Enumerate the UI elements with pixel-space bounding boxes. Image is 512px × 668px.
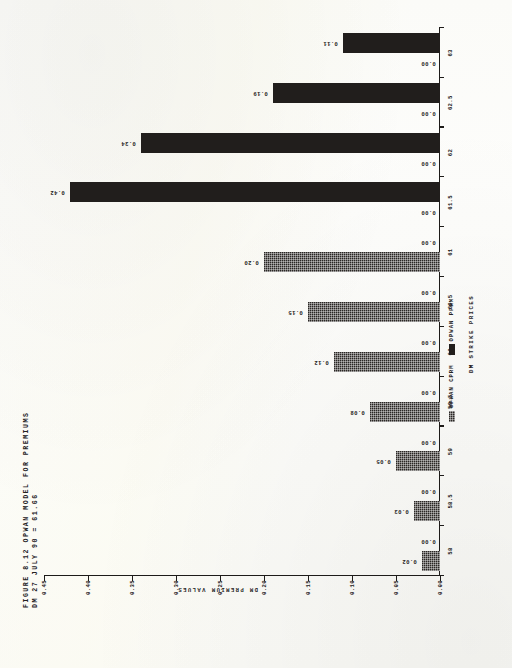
bar-cprm: 0.08 bbox=[370, 402, 440, 422]
x-tick bbox=[439, 475, 444, 476]
x-tick bbox=[439, 326, 444, 327]
bar-cprm: 0.02 bbox=[422, 551, 440, 571]
legend-item-cprm: OPWAN CPRM bbox=[448, 364, 455, 422]
x-tick-label: 63 bbox=[447, 49, 454, 56]
x-tick-label: 61 bbox=[447, 249, 454, 256]
bar-value-label: 0.20 bbox=[244, 259, 259, 266]
y-axis-line bbox=[44, 575, 440, 576]
bar-value-label: 0.05 bbox=[376, 458, 391, 465]
y-tick-label: 0.05 bbox=[393, 580, 400, 595]
bar-value-label: 0.00 bbox=[421, 388, 436, 395]
x-tick-label: 62 bbox=[447, 149, 454, 156]
y-tick-label: 0.45 bbox=[41, 580, 48, 595]
x-tick bbox=[439, 376, 444, 377]
bar-pfrm: 0.34 bbox=[141, 133, 440, 153]
bar-cprm: 0.03 bbox=[414, 501, 440, 521]
bar-value-label: 0.42 bbox=[51, 189, 66, 196]
bar-value-label: 0.11 bbox=[323, 39, 338, 46]
figure-title-line-1: FIGURE 8.12 OPWAN MODEL FOR PREMIUMS bbox=[23, 412, 30, 608]
bar-cprm: 0.15 bbox=[308, 302, 440, 322]
x-tick-label: 62.5 bbox=[447, 95, 454, 110]
bar-value-label: 0.19 bbox=[253, 89, 268, 96]
bar-cprm: 0.05 bbox=[396, 451, 440, 471]
bar-cprm: 0.20 bbox=[264, 252, 440, 272]
bar-value-label: 0.00 bbox=[421, 538, 436, 545]
x-tick bbox=[439, 575, 444, 576]
rotated-figure-container: FIGURE 8.12 OPWAN MODEL FOR PREMIUMS DM … bbox=[0, 0, 512, 668]
x-tick bbox=[439, 77, 444, 78]
bar-value-label: 0.15 bbox=[288, 308, 303, 315]
bar-value-label: 0.00 bbox=[421, 109, 436, 116]
bar-pfrm: 0.11 bbox=[343, 33, 440, 53]
x-axis-label: DM STRIKE PRICES bbox=[468, 0, 475, 668]
x-tick bbox=[439, 276, 444, 277]
bar-value-label: 0.00 bbox=[421, 338, 436, 345]
bar-value-label: 0.34 bbox=[121, 139, 136, 146]
y-tick-label: 0.20 bbox=[261, 580, 268, 595]
x-tick bbox=[439, 176, 444, 177]
legend-label-pfrm: OPWAN PFRM bbox=[448, 298, 455, 342]
x-tick bbox=[439, 425, 444, 426]
y-tick-label: 0.25 bbox=[217, 580, 224, 595]
x-tick bbox=[439, 226, 444, 227]
figure-title: FIGURE 8.12 OPWAN MODEL FOR PREMIUMS DM … bbox=[22, 412, 40, 608]
x-tick-label: 58.5 bbox=[447, 494, 454, 509]
bar-value-label: 0.08 bbox=[350, 408, 365, 415]
figure-canvas: FIGURE 8.12 OPWAN MODEL FOR PREMIUMS DM … bbox=[0, 0, 512, 668]
x-tick bbox=[439, 27, 444, 28]
bar-value-label: 0.00 bbox=[421, 159, 436, 166]
x-tick-label: 61.5 bbox=[447, 195, 454, 210]
bar-pfrm: 0.19 bbox=[273, 83, 440, 103]
bar-value-label: 0.00 bbox=[421, 438, 436, 445]
bar-value-label: 0.00 bbox=[421, 59, 436, 66]
bar-value-label: 0.00 bbox=[421, 488, 436, 495]
y-tick-label: 0.30 bbox=[173, 580, 180, 595]
plot-area: 0.000.050.100.150.200.250.300.350.400.45… bbox=[44, 28, 440, 576]
bar-value-label: 0.00 bbox=[421, 289, 436, 296]
bar-cprm: 0.12 bbox=[334, 352, 440, 372]
bar-value-label: 0.03 bbox=[394, 508, 409, 515]
chart-legend: OPWAN CPRM OPWAN PFRM bbox=[448, 298, 455, 422]
y-tick-label: 0.10 bbox=[349, 580, 356, 595]
x-tick-label: 59 bbox=[447, 448, 454, 455]
bar-value-label: 0.00 bbox=[421, 209, 436, 216]
y-tick-label: 0.35 bbox=[129, 580, 136, 595]
x-tick-label: 58 bbox=[447, 547, 454, 554]
bar-value-label: 0.02 bbox=[403, 558, 418, 565]
x-tick bbox=[439, 525, 444, 526]
figure-title-line-2: DM 27 JULY 90 = 61.66 bbox=[31, 412, 40, 608]
bar-value-label: 0.00 bbox=[421, 239, 436, 246]
y-tick-label: 0.40 bbox=[85, 580, 92, 595]
legend-swatch-cprm-icon bbox=[449, 411, 455, 422]
bar-value-label: 0.12 bbox=[315, 358, 330, 365]
y-tick-label: 0.00 bbox=[437, 580, 444, 595]
legend-label-cprm: OPWAN CPRM bbox=[448, 364, 455, 408]
x-tick bbox=[439, 126, 444, 127]
legend-item-pfrm: OPWAN PFRM bbox=[448, 298, 455, 356]
bar-pfrm: 0.42 bbox=[70, 182, 440, 202]
legend-swatch-pfrm-icon bbox=[449, 344, 455, 355]
y-tick-label: 0.15 bbox=[305, 580, 312, 595]
